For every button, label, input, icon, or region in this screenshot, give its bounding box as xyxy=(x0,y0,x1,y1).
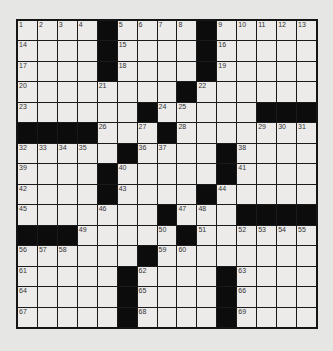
grid-cell[interactable] xyxy=(38,308,57,327)
grid-cell[interactable] xyxy=(257,246,276,265)
grid-cell[interactable]: 9 xyxy=(217,21,236,40)
grid-cell[interactable] xyxy=(78,103,97,122)
grid-cell[interactable] xyxy=(237,103,256,122)
grid-cell[interactable] xyxy=(237,62,256,81)
grid-cell[interactable]: 54 xyxy=(277,226,296,245)
grid-cell[interactable] xyxy=(158,267,177,286)
grid-cell[interactable] xyxy=(277,41,296,60)
grid-cell[interactable]: 44 xyxy=(217,185,236,204)
grid-cell[interactable]: 26 xyxy=(98,123,117,142)
grid-cell[interactable] xyxy=(297,267,316,286)
grid-cell[interactable] xyxy=(38,205,57,224)
grid-cell[interactable] xyxy=(237,185,256,204)
grid-cell[interactable] xyxy=(78,287,97,306)
grid-cell[interactable]: 68 xyxy=(138,308,157,327)
grid-cell[interactable] xyxy=(118,226,137,245)
grid-cell[interactable] xyxy=(78,185,97,204)
grid-cell[interactable]: 58 xyxy=(58,246,77,265)
grid-cell[interactable] xyxy=(277,267,296,286)
grid-cell[interactable]: 51 xyxy=(197,226,216,245)
grid-cell[interactable]: 62 xyxy=(138,267,157,286)
grid-cell[interactable]: 28 xyxy=(177,123,196,142)
grid-cell[interactable] xyxy=(257,41,276,60)
grid-cell[interactable] xyxy=(177,185,196,204)
grid-cell[interactable] xyxy=(197,287,216,306)
grid-cell[interactable]: 29 xyxy=(257,123,276,142)
grid-cell[interactable]: 2 xyxy=(38,21,57,40)
grid-cell[interactable] xyxy=(78,308,97,327)
grid-cell[interactable] xyxy=(78,62,97,81)
grid-cell[interactable] xyxy=(118,103,137,122)
grid-cell[interactable]: 34 xyxy=(58,144,77,163)
grid-cell[interactable] xyxy=(197,164,216,183)
grid-cell[interactable] xyxy=(177,144,196,163)
grid-cell[interactable] xyxy=(118,123,137,142)
grid-cell[interactable] xyxy=(257,308,276,327)
grid-cell[interactable]: 63 xyxy=(237,267,256,286)
grid-cell[interactable] xyxy=(257,144,276,163)
grid-cell[interactable]: 56 xyxy=(18,246,37,265)
grid-cell[interactable] xyxy=(217,123,236,142)
grid-cell[interactable]: 49 xyxy=(78,226,97,245)
grid-cell[interactable]: 31 xyxy=(297,123,316,142)
grid-cell[interactable]: 19 xyxy=(217,62,236,81)
grid-cell[interactable] xyxy=(158,185,177,204)
grid-cell[interactable] xyxy=(217,205,236,224)
grid-cell[interactable] xyxy=(277,82,296,101)
grid-cell[interactable]: 40 xyxy=(118,164,137,183)
grid-cell[interactable] xyxy=(197,246,216,265)
grid-cell[interactable]: 55 xyxy=(297,226,316,245)
grid-cell[interactable] xyxy=(158,287,177,306)
grid-cell[interactable]: 66 xyxy=(237,287,256,306)
grid-cell[interactable]: 50 xyxy=(158,226,177,245)
grid-cell[interactable]: 14 xyxy=(18,41,37,60)
grid-cell[interactable] xyxy=(38,185,57,204)
grid-cell[interactable] xyxy=(197,267,216,286)
grid-cell[interactable] xyxy=(257,287,276,306)
grid-cell[interactable] xyxy=(78,246,97,265)
grid-cell[interactable]: 1 xyxy=(18,21,37,40)
grid-cell[interactable]: 30 xyxy=(277,123,296,142)
grid-cell[interactable] xyxy=(277,164,296,183)
grid-cell[interactable] xyxy=(197,308,216,327)
grid-cell[interactable]: 69 xyxy=(237,308,256,327)
grid-cell[interactable] xyxy=(297,287,316,306)
grid-cell[interactable]: 48 xyxy=(197,205,216,224)
grid-cell[interactable] xyxy=(297,246,316,265)
grid-cell[interactable]: 18 xyxy=(118,62,137,81)
grid-cell[interactable] xyxy=(118,246,137,265)
grid-cell[interactable] xyxy=(58,103,77,122)
grid-cell[interactable] xyxy=(297,144,316,163)
grid-cell[interactable] xyxy=(38,62,57,81)
grid-cell[interactable]: 42 xyxy=(18,185,37,204)
grid-cell[interactable] xyxy=(138,226,157,245)
grid-cell[interactable] xyxy=(197,123,216,142)
grid-cell[interactable]: 67 xyxy=(18,308,37,327)
grid-cell[interactable]: 53 xyxy=(257,226,276,245)
grid-cell[interactable]: 57 xyxy=(38,246,57,265)
grid-cell[interactable] xyxy=(217,82,236,101)
grid-cell[interactable] xyxy=(217,246,236,265)
grid-cell[interactable] xyxy=(58,205,77,224)
grid-cell[interactable]: 32 xyxy=(18,144,37,163)
grid-cell[interactable]: 61 xyxy=(18,267,37,286)
grid-cell[interactable]: 20 xyxy=(18,82,37,101)
grid-cell[interactable] xyxy=(297,62,316,81)
grid-cell[interactable] xyxy=(58,62,77,81)
grid-cell[interactable] xyxy=(118,82,137,101)
grid-cell[interactable] xyxy=(78,164,97,183)
grid-cell[interactable]: 43 xyxy=(118,185,137,204)
grid-cell[interactable] xyxy=(98,226,117,245)
grid-cell[interactable] xyxy=(138,82,157,101)
grid-cell[interactable] xyxy=(98,103,117,122)
grid-cell[interactable] xyxy=(118,205,137,224)
grid-cell[interactable] xyxy=(197,144,216,163)
grid-cell[interactable] xyxy=(78,41,97,60)
grid-cell[interactable] xyxy=(217,103,236,122)
grid-cell[interactable] xyxy=(38,103,57,122)
grid-cell[interactable] xyxy=(277,144,296,163)
grid-cell[interactable] xyxy=(158,62,177,81)
grid-cell[interactable]: 3 xyxy=(58,21,77,40)
grid-cell[interactable] xyxy=(38,164,57,183)
grid-cell[interactable] xyxy=(297,82,316,101)
